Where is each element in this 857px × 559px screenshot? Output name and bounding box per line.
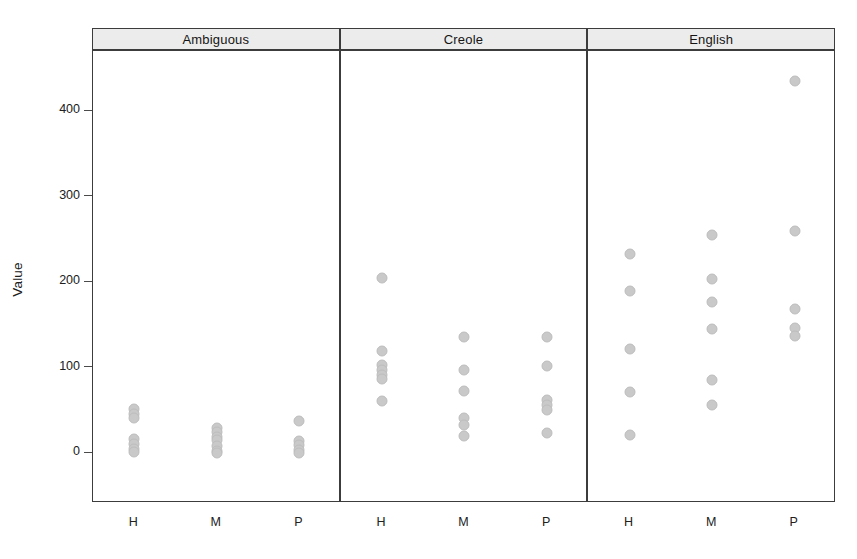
data-point: [459, 365, 470, 376]
panel-ambiguous: [92, 50, 340, 502]
data-point: [542, 360, 553, 371]
x-tick-label: H: [129, 515, 138, 529]
data-point: [624, 343, 635, 354]
x-tick-label: M: [458, 515, 468, 529]
data-point: [459, 385, 470, 396]
y-tick-line: [84, 366, 92, 367]
y-tick-line: [84, 195, 92, 196]
data-point: [789, 330, 800, 341]
x-tick-label: H: [376, 515, 385, 529]
data-point: [789, 76, 800, 87]
y-tick-label: 100: [59, 359, 80, 373]
panel-creole: [340, 50, 588, 502]
data-point: [789, 225, 800, 236]
data-point: [624, 430, 635, 441]
data-point: [459, 430, 470, 441]
panel-english: [587, 50, 835, 502]
data-point: [707, 375, 718, 386]
data-point: [376, 374, 387, 385]
data-point: [707, 296, 718, 307]
y-tick-label: 200: [59, 273, 80, 287]
y-tick-line: [84, 110, 92, 111]
y-tick-label: 300: [59, 188, 80, 202]
data-point: [542, 331, 553, 342]
data-point: [376, 346, 387, 357]
x-tick-label: P: [542, 515, 550, 529]
y-axis-title: Value: [4, 0, 30, 559]
panel-strip-label: Creole: [340, 28, 588, 50]
data-point: [211, 448, 222, 459]
data-point: [707, 324, 718, 335]
data-point: [789, 304, 800, 315]
x-tick-label: P: [790, 515, 798, 529]
data-point: [707, 400, 718, 411]
x-tick-label: H: [624, 515, 633, 529]
chart-figure: Value 0100200300400 AmbiguousCreoleEngli…: [0, 0, 857, 559]
data-point: [542, 428, 553, 439]
panel-strip-label: Ambiguous: [92, 28, 340, 50]
data-point: [294, 415, 305, 426]
x-tick-label: M: [211, 515, 221, 529]
data-point: [129, 447, 140, 458]
x-tick-label: P: [294, 515, 302, 529]
data-point: [624, 248, 635, 259]
x-tick-label: M: [706, 515, 716, 529]
data-point: [624, 387, 635, 398]
data-point: [624, 285, 635, 296]
data-point: [459, 331, 470, 342]
data-point: [376, 395, 387, 406]
panel-strip-label: English: [587, 28, 835, 50]
data-point: [707, 274, 718, 285]
data-point: [707, 229, 718, 240]
y-tick-line: [84, 281, 92, 282]
data-point: [129, 412, 140, 423]
y-tick-label: 0: [73, 444, 80, 458]
data-point: [459, 419, 470, 430]
y-tick-label: 400: [59, 102, 80, 116]
data-point: [294, 448, 305, 459]
data-point: [542, 405, 553, 416]
y-tick-line: [84, 452, 92, 453]
data-point: [376, 272, 387, 283]
